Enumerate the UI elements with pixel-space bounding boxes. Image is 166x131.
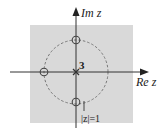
pole-zero-diagram: Im z Re z 3 |z|=1 bbox=[0, 0, 166, 131]
imag-axis-arrow-icon bbox=[73, 7, 80, 16]
unit-circle-label: |z|=1 bbox=[81, 113, 100, 124]
real-axis-label: Re z bbox=[135, 75, 157, 89]
imag-axis-label: Im z bbox=[80, 6, 102, 20]
shaded-region bbox=[30, 25, 133, 123]
pole-order-label: 3 bbox=[79, 59, 85, 71]
